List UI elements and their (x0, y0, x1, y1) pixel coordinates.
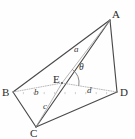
vertex-label-c: C (30, 128, 37, 139)
label-a: a (74, 45, 79, 54)
angle-theta-arc (72, 69, 79, 85)
label-d: d (87, 86, 92, 95)
edge-AD (110, 20, 117, 92)
vertex-label-d: D (120, 87, 128, 98)
vertex-points (61, 82, 63, 84)
edge-BC (13, 92, 36, 127)
vertex-label-a: A (112, 9, 120, 20)
angle-arc-theta (72, 69, 79, 85)
tetrahedron-edges (13, 20, 117, 127)
geometry-figure: ABCDE abcd θ (0, 0, 135, 139)
label-c: c (43, 102, 47, 111)
vertex-label-b: B (2, 87, 9, 98)
vertex-dot-e (61, 82, 63, 84)
segment-EA (62, 20, 110, 83)
label-b: b (34, 88, 39, 97)
vertex-label-e: E (53, 74, 60, 85)
segment-EC (36, 83, 62, 127)
tetrahedron-drawing (0, 0, 135, 139)
edge-AB (13, 20, 110, 92)
angle-theta-label: θ (79, 63, 84, 73)
